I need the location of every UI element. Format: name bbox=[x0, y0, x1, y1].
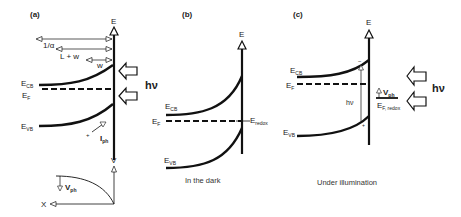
svg-text:−: − bbox=[358, 58, 362, 64]
band-diagram: (a) E 1/α L + w w ECB EF EVB bbox=[0, 0, 461, 217]
valence-band bbox=[166, 128, 242, 168]
svg-text:EVB: EVB bbox=[21, 122, 34, 132]
panel-c: (c) E ECB EF EVB − + hν Vph EF, redox hν… bbox=[283, 10, 445, 187]
axis-label: E bbox=[366, 18, 371, 27]
inset-x-axis-label: X bbox=[41, 200, 47, 209]
svg-text:Vph: Vph bbox=[65, 183, 76, 193]
svg-text:Vph: Vph bbox=[383, 88, 394, 98]
svg-text:EF: EF bbox=[286, 81, 294, 91]
panel-a-label: (a) bbox=[30, 10, 40, 19]
caption-dark: In the dark bbox=[185, 176, 221, 185]
svg-text:EF: EF bbox=[22, 91, 30, 101]
svg-text:+: + bbox=[362, 122, 365, 128]
axis-label: E bbox=[111, 17, 116, 26]
svg-text:+: + bbox=[86, 132, 90, 138]
absorption-length-label: 1/α bbox=[43, 41, 55, 50]
valence-band bbox=[297, 116, 369, 136]
svg-text:ECB: ECB bbox=[290, 66, 303, 76]
caption-illumination: Under illumination bbox=[317, 178, 377, 187]
svg-text:EF, redox: EF, redox bbox=[377, 101, 401, 111]
penetration-arrows: 1/α L + w w bbox=[36, 37, 112, 71]
photocurrent-arrow bbox=[92, 124, 103, 132]
panel-b: (b) E ECB EF Eredox EVB In the dark bbox=[152, 10, 268, 185]
svg-text:ECB: ECB bbox=[165, 102, 178, 112]
photovoltage-inset: V X Vph bbox=[41, 156, 117, 209]
incident-light-icon bbox=[407, 67, 426, 110]
svg-text:Eredox: Eredox bbox=[250, 116, 268, 126]
diffusion-length-label: L + w bbox=[60, 52, 79, 61]
panel-c-label: (c) bbox=[293, 10, 303, 19]
photon-label: hν bbox=[145, 79, 158, 91]
incident-light-icon bbox=[119, 63, 137, 104]
axis-arrow-icon bbox=[110, 27, 118, 35]
inset-v-axis-label: V bbox=[111, 156, 117, 165]
svg-text:EVB: EVB bbox=[283, 128, 296, 138]
gap-hv-label: hν bbox=[346, 99, 354, 106]
svg-text:Iph: Iph bbox=[100, 134, 108, 144]
svg-text:EF: EF bbox=[152, 117, 160, 127]
conduction-band bbox=[166, 76, 242, 115]
panel-a: (a) E 1/α L + w w ECB EF EVB bbox=[21, 10, 158, 209]
axis-arrow-icon bbox=[365, 30, 373, 38]
axis-label: E bbox=[239, 30, 244, 39]
panel-b-label: (b) bbox=[182, 10, 193, 19]
depletion-width-label: w bbox=[96, 61, 103, 70]
axis-arrow-icon bbox=[238, 41, 246, 49]
photon-label: hν bbox=[432, 82, 445, 94]
svg-text:EVB: EVB bbox=[164, 156, 177, 166]
svg-text:ECB: ECB bbox=[21, 79, 34, 89]
